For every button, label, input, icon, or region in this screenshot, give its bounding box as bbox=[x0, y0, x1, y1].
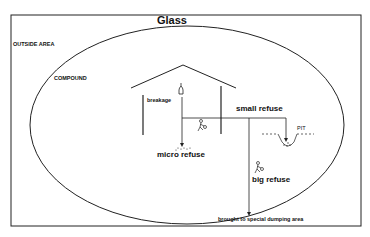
bottle-icon bbox=[179, 83, 183, 94]
arrow-down-icon bbox=[180, 143, 184, 147]
outside-area-label: OUTSIDE AREA bbox=[13, 41, 54, 47]
diagram-canvas bbox=[0, 0, 370, 237]
destination-label: brought to special dumping area bbox=[218, 216, 303, 222]
diagram-title: Glass bbox=[157, 14, 187, 26]
micro-refuse-label: micro refuse bbox=[157, 150, 205, 159]
big-refuse-label: big refuse bbox=[252, 175, 290, 184]
pit-icon bbox=[262, 134, 314, 146]
arrow-down-icon bbox=[284, 138, 288, 142]
compound-label: COMPOUND bbox=[54, 75, 87, 81]
person-carrying-icon bbox=[255, 162, 264, 174]
pit-label: PIT bbox=[297, 125, 306, 131]
breakage-label: breakage bbox=[147, 97, 171, 103]
outside-area-frame bbox=[11, 15, 361, 226]
person-carrying-icon bbox=[198, 120, 207, 132]
house-roof bbox=[131, 65, 236, 88]
small-refuse-label: small refuse bbox=[236, 104, 283, 113]
